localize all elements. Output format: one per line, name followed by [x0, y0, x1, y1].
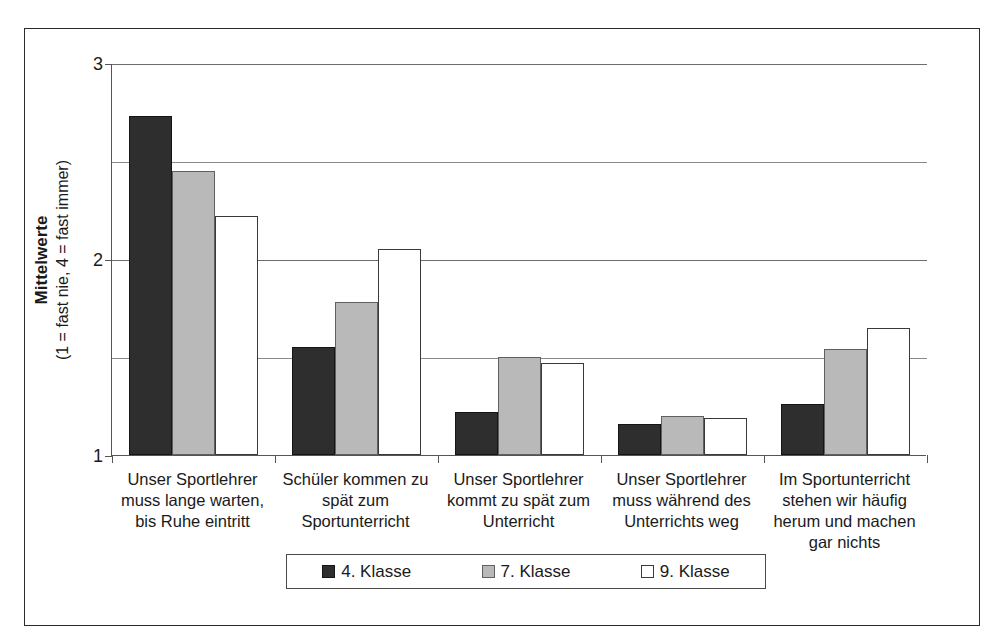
bar	[215, 216, 258, 455]
bar	[129, 116, 172, 455]
category-label-line: Unser Sportlehrer	[600, 469, 763, 490]
y-axis-title-main: Mittelwerte	[31, 216, 52, 305]
category-label-line: gar nichts	[763, 532, 926, 553]
y-axis-title: Mittelwerte (1 = fast nie, 4 = fast imme…	[31, 64, 73, 456]
x-axis-category-label: Unser Sportlehrermuss während desUnterri…	[600, 469, 763, 532]
category-label-line: kommt zu spät zum	[437, 490, 600, 511]
bar	[704, 418, 747, 455]
y-axis-tick	[105, 260, 112, 261]
gridline	[112, 64, 927, 65]
category-label-line: stehen wir häufig	[763, 490, 926, 511]
legend-item-label: 4. Klasse	[341, 562, 411, 582]
y-axis-tick-label: 1	[93, 447, 103, 465]
legend-item: 7. Klasse	[482, 562, 571, 582]
bar	[172, 171, 215, 455]
category-label-line: spät zum	[274, 490, 437, 511]
bar	[335, 302, 378, 455]
bar	[824, 349, 867, 455]
gray-square-icon	[482, 565, 495, 578]
bar-chart: Mittelwerte (1 = fast nie, 4 = fast imme…	[25, 29, 981, 627]
category-label-line: muss während des	[600, 490, 763, 511]
y-axis-title-sub: (1 = fast nie, 4 = fast immer)	[53, 160, 73, 360]
plot-area: 123	[111, 64, 926, 456]
x-axis-category-label: Unser Sportlehrermuss lange warten,bis R…	[111, 469, 274, 532]
x-axis-tick	[764, 455, 765, 463]
category-label-line: herum und machen	[763, 511, 926, 532]
bar	[781, 404, 824, 455]
category-label-line: Sportunterricht	[274, 511, 437, 532]
category-label-line: bis Ruhe eintritt	[111, 511, 274, 532]
x-axis-category-label: Im Sportunterrichtstehen wir häufigherum…	[763, 469, 926, 553]
x-axis-category-label: Unser Sportlehrerkommt zu spät zumUnterr…	[437, 469, 600, 532]
category-label-line: muss lange warten,	[111, 490, 274, 511]
legend-item-label: 9. Klasse	[660, 562, 730, 582]
y-axis-tick	[105, 456, 112, 457]
legend-item: 4. Klasse	[322, 562, 411, 582]
x-axis-tick	[927, 455, 928, 463]
category-label-line: Unser Sportlehrer	[111, 469, 274, 490]
bar	[455, 412, 498, 455]
bar	[292, 347, 335, 455]
category-label-line: Unterrichts weg	[600, 511, 763, 532]
legend-item: 9. Klasse	[641, 562, 730, 582]
bar	[618, 424, 661, 455]
bar	[661, 416, 704, 455]
bar	[378, 249, 421, 455]
x-axis-tick	[112, 455, 113, 463]
x-axis-category-labels: Unser Sportlehrermuss lange warten,bis R…	[111, 469, 926, 564]
caption-ghost-text	[110, 631, 910, 641]
x-axis-category-label: Schüler kommen zuspät zumSportunterricht	[274, 469, 437, 532]
x-axis-tick	[275, 455, 276, 463]
bar	[498, 357, 541, 455]
x-axis-tick	[438, 455, 439, 463]
x-axis-tick	[601, 455, 602, 463]
gridline	[112, 162, 927, 163]
black-square-icon	[322, 565, 335, 578]
category-label-line: Schüler kommen zu	[274, 469, 437, 490]
bar	[541, 363, 584, 455]
legend-item-label: 7. Klasse	[501, 562, 571, 582]
figure-frame: Mittelwerte (1 = fast nie, 4 = fast imme…	[24, 28, 980, 626]
category-label-line: Im Sportunterricht	[763, 469, 926, 490]
y-axis-tick-label: 3	[93, 55, 103, 73]
white-square-icon	[641, 565, 654, 578]
category-label-line: Unser Sportlehrer	[437, 469, 600, 490]
chart-legend: 4. Klasse7. Klasse9. Klasse	[286, 554, 766, 589]
y-axis-tick-label: 2	[93, 251, 103, 269]
category-label-line: Unterricht	[437, 511, 600, 532]
bar	[867, 328, 910, 455]
y-axis-tick	[105, 64, 112, 65]
